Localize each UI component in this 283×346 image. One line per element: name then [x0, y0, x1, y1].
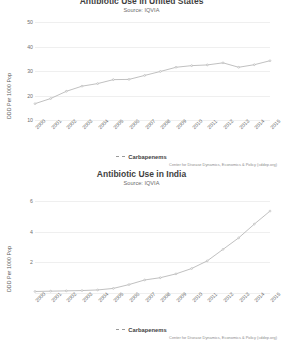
y-axis-tick-label: 10 [17, 117, 33, 123]
data-point [206, 260, 208, 262]
data-point [222, 248, 224, 250]
data-point [65, 90, 67, 92]
plot-area-india: DDD Per 1000 Pop 6 4 2 20002001200220032… [0, 187, 283, 305]
data-point [238, 237, 240, 239]
data-point [112, 288, 114, 290]
x-axis-tick-label: 2015 [269, 118, 281, 130]
data-point [50, 98, 52, 100]
data-point [128, 79, 130, 81]
data-point [112, 79, 114, 81]
chart-panel-united-states: Antibiotic Use in United States Source: … [0, 0, 283, 169]
series-path [35, 61, 270, 104]
data-point [97, 83, 99, 85]
plot-canvas-india [35, 195, 270, 293]
chart-source-label: Source: IQVIA [0, 6, 283, 14]
chart-attribution: Center for Disease Dynamics, Economics &… [0, 162, 283, 168]
y-axis-tick-label: 30 [17, 68, 33, 74]
data-point [191, 65, 193, 67]
data-point [253, 223, 255, 225]
y-axis-title-india: DDD Per 1000 Pop [6, 246, 12, 292]
data-point [65, 290, 67, 292]
data-point [50, 290, 52, 292]
chart-attribution-india: Center for Disease Dynamics, Economics &… [0, 335, 283, 341]
y-axis-tick-label: 50 [17, 19, 33, 25]
plot-canvas-us [35, 22, 270, 120]
chart-source-label-india: Source: IQVIA [0, 179, 283, 187]
data-point [128, 284, 130, 286]
y-axis-tick-label: 4 [17, 229, 33, 235]
legend-line-icon [116, 329, 125, 331]
series-line-carbapenems-us [35, 22, 270, 120]
data-point [175, 273, 177, 275]
chart-panel-india: Antibiotic Use in India Source: IQVIA DD… [0, 169, 283, 342]
data-point [175, 66, 177, 68]
data-point [34, 291, 36, 293]
y-axis-tick-label: 2 [17, 259, 33, 265]
x-axis-tick-labels-us: 2000200120022003200420052006200720082009… [0, 126, 283, 156]
data-point [159, 277, 161, 279]
data-point [81, 290, 83, 292]
data-point [81, 85, 83, 87]
data-point [253, 64, 255, 66]
data-point [222, 62, 224, 64]
data-point [34, 103, 36, 105]
data-point [159, 71, 161, 73]
antibiotic-use-charts-page: Antibiotic Use in United States Source: … [0, 0, 283, 346]
plot-area-united-states: DDD Per 1000 Pop 50 40 30 20 10 20002001… [0, 14, 283, 132]
data-point [238, 66, 240, 68]
series-path [35, 211, 270, 291]
series-line-carbapenems-india [35, 195, 270, 293]
data-point [144, 279, 146, 281]
data-point [97, 289, 99, 291]
data-point [191, 268, 193, 270]
x-axis-tick-labels-india: 2000200120022003200420052006200720082009… [0, 299, 283, 329]
legend-line-icon [116, 156, 125, 158]
y-axis-title: DDD Per 1000 Pop [6, 73, 12, 119]
x-axis-tick-label: 2015 [269, 291, 281, 303]
y-axis-tick-label: 20 [17, 93, 33, 99]
y-axis-tick-label: 6 [17, 198, 33, 204]
page-title-india: Antibiotic Use in India [0, 169, 283, 179]
data-point [269, 210, 271, 212]
data-point [206, 64, 208, 66]
data-point [144, 75, 146, 77]
y-axis-tick-label: 40 [17, 44, 33, 50]
data-point [269, 60, 271, 62]
